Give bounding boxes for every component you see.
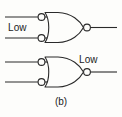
gate-2-input-bubble-b bbox=[38, 79, 45, 86]
gate-1-input-low-label: Low bbox=[8, 23, 27, 33]
gate-1-input-bubble-b bbox=[38, 35, 45, 42]
gate-1-body bbox=[45, 13, 84, 43]
gate-2 bbox=[5, 57, 117, 87]
gate-2-output-low-label: Low bbox=[79, 55, 98, 65]
gate-1-output-bubble bbox=[84, 24, 91, 31]
figure-caption: (b) bbox=[0, 97, 122, 107]
gate-1-input-bubble-a bbox=[38, 14, 45, 21]
figure-panel: Low Low (b) bbox=[0, 0, 122, 117]
gate-2-output-bubble bbox=[84, 69, 91, 76]
gate-2-body bbox=[45, 57, 84, 87]
gate-2-input-bubble-a bbox=[38, 59, 45, 66]
